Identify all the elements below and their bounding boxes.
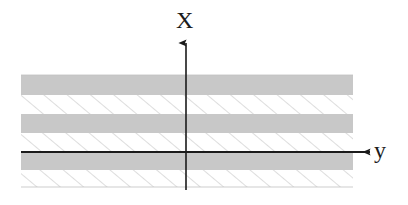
layer-band-5-hatch (21, 170, 353, 187)
layer-band-0-solid (21, 75, 353, 95)
layer-stack (21, 75, 353, 187)
layer-band-2-solid (21, 114, 353, 133)
x-axis-label: X (176, 8, 193, 32)
figure-canvas: X y (0, 0, 408, 205)
layer-band-1-hatch (21, 95, 353, 114)
layer-band-4-solid (21, 153, 353, 170)
y-axis-label: y (374, 138, 386, 162)
layer-band-3-hatch (21, 133, 353, 153)
layered-medium-diagram (0, 0, 408, 205)
